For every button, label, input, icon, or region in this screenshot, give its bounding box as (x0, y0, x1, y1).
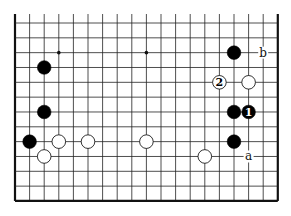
white-stone (198, 150, 212, 164)
black-stone (23, 135, 37, 149)
white-stone (81, 135, 95, 149)
black-stone (227, 105, 241, 119)
star-point (57, 51, 61, 55)
white-stone (37, 150, 51, 164)
move-number: 1 (245, 106, 253, 119)
star-point (145, 51, 149, 55)
point-labels: ba (244, 46, 269, 164)
go-board: ba 12 (0, 0, 291, 216)
white-stone (52, 135, 66, 149)
white-stone (140, 135, 154, 149)
black-stone (227, 46, 241, 60)
stones: 12 (23, 46, 256, 163)
move-number: 2 (216, 76, 224, 89)
white-stone (242, 76, 256, 90)
black-stone (227, 135, 241, 149)
point-label-b: b (259, 46, 267, 60)
point-label-a: a (245, 149, 252, 163)
black-stone (37, 105, 51, 119)
black-stone (37, 61, 51, 75)
